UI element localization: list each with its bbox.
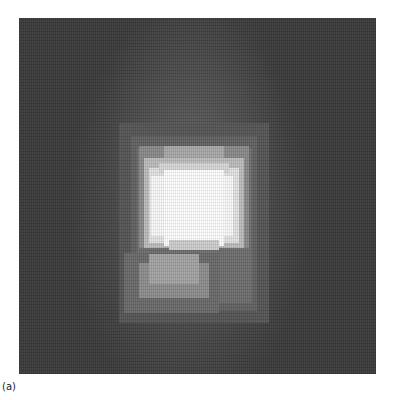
pixel-block (164, 170, 224, 246)
astronomical-image (19, 18, 376, 374)
pixel-block (149, 254, 199, 284)
figure-label: (a) (2, 381, 16, 392)
pixel-block (164, 146, 224, 158)
pixel-block (169, 240, 219, 250)
